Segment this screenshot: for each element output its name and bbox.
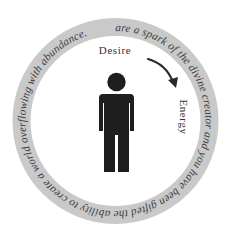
desire-label: Desire bbox=[99, 44, 131, 56]
diagram-canvas: You are a spark of the divine creator an… bbox=[0, 0, 231, 239]
curved-arrow-icon bbox=[148, 59, 178, 88]
energy-label: Energy bbox=[178, 99, 190, 134]
person-icon bbox=[99, 73, 134, 172]
diagram: You are a spark of the divine creator an… bbox=[0, 0, 231, 239]
